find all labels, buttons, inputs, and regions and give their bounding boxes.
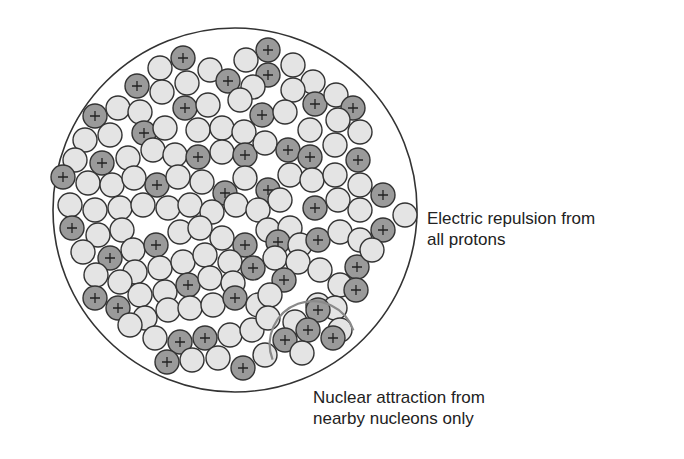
neutron	[108, 196, 132, 220]
neutron	[323, 163, 347, 187]
proton	[144, 233, 168, 257]
neutron	[98, 123, 122, 147]
neutron	[153, 116, 177, 140]
proton	[60, 216, 84, 240]
proton	[155, 350, 179, 374]
neutron	[263, 246, 287, 270]
neutron	[253, 343, 277, 367]
neutron	[232, 120, 256, 144]
neutron	[83, 198, 107, 222]
neutron	[143, 326, 167, 350]
neutron	[281, 78, 305, 102]
neutron	[175, 71, 199, 95]
neutron	[278, 163, 302, 187]
neutron	[193, 243, 217, 267]
neutron	[348, 198, 372, 222]
neutron	[166, 165, 190, 189]
nuclear-attraction-label: Nuclear attraction from nearby nucleons …	[313, 387, 485, 429]
neutron	[178, 296, 202, 320]
neutron	[58, 193, 82, 217]
neutron	[190, 170, 214, 194]
neutron	[100, 173, 124, 197]
neutron	[218, 250, 242, 274]
neutron	[234, 48, 258, 72]
neutron	[233, 166, 257, 190]
neutron	[188, 216, 212, 240]
neutron	[393, 203, 417, 227]
neutron	[156, 196, 180, 220]
neutron	[256, 306, 280, 330]
neutron	[196, 93, 220, 117]
proton	[90, 151, 114, 175]
neutron	[298, 118, 322, 142]
proton	[51, 165, 75, 189]
proton	[171, 46, 195, 70]
proton	[241, 256, 265, 280]
neutron	[326, 188, 350, 212]
electric-repulsion-label-line2: all protons	[427, 229, 595, 250]
proton	[250, 103, 274, 127]
neutron	[290, 341, 314, 365]
neutron	[106, 96, 130, 120]
neutron	[206, 346, 230, 370]
proton	[176, 273, 200, 297]
neutron	[210, 140, 234, 164]
neutron	[186, 118, 210, 142]
electric-repulsion-label: Electric repulsion from all protons	[427, 208, 595, 250]
neutron	[76, 171, 100, 195]
neutron	[156, 298, 180, 322]
neutron	[84, 263, 108, 287]
neutron	[224, 193, 248, 217]
neutron	[171, 250, 195, 274]
neutron	[273, 100, 297, 124]
nuclear-attraction-label-line2: nearby nucleons only	[313, 408, 485, 429]
neutron	[228, 88, 252, 112]
neutron	[201, 293, 225, 317]
neutron	[150, 80, 174, 104]
neutron	[180, 348, 204, 372]
neutron	[148, 56, 172, 80]
neutron	[308, 258, 332, 282]
proton	[125, 74, 149, 98]
neutron	[210, 116, 234, 140]
proton	[296, 318, 320, 342]
neutron	[348, 120, 372, 144]
neutron	[128, 283, 152, 307]
neutron	[131, 193, 155, 217]
electric-repulsion-label-line1: Electric repulsion from	[427, 208, 595, 229]
proton	[231, 356, 255, 380]
neutron	[348, 173, 372, 197]
neutron	[148, 256, 172, 280]
neutron	[198, 266, 222, 290]
proton	[83, 286, 107, 310]
proton	[256, 38, 280, 62]
neutron	[326, 108, 350, 132]
neutron	[178, 193, 202, 217]
neutron	[141, 138, 165, 162]
proton	[298, 145, 322, 169]
neutron	[323, 133, 347, 157]
neutron	[71, 240, 95, 264]
proton	[223, 286, 247, 310]
neutron	[163, 143, 187, 167]
neutron	[118, 313, 142, 337]
proton	[371, 183, 395, 207]
neutron	[128, 100, 152, 124]
proton	[346, 148, 370, 172]
neutron	[268, 188, 292, 212]
neutron	[218, 323, 242, 347]
proton	[303, 196, 327, 220]
neutron	[300, 168, 324, 192]
proton	[173, 96, 197, 120]
neutron	[121, 238, 145, 262]
proton	[276, 138, 300, 162]
neutron	[122, 166, 146, 190]
neutron	[281, 53, 305, 77]
neutron	[253, 131, 277, 155]
proton	[344, 278, 368, 302]
proton	[321, 326, 345, 350]
nuclear-attraction-label-line1: Nuclear attraction from	[313, 387, 485, 408]
neutron	[258, 283, 282, 307]
proton	[186, 145, 210, 169]
neutron	[360, 238, 384, 262]
